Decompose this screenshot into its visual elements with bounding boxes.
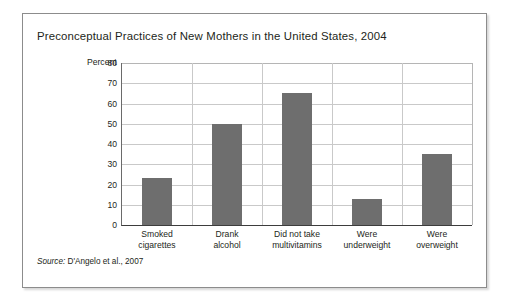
y-axis-tick-label: 80 xyxy=(107,58,117,68)
y-axis-tick-label: 60 xyxy=(107,99,117,109)
y-axis-tick-label: 10 xyxy=(107,200,117,210)
x-axis-category-label: Did not take multivitamins xyxy=(262,229,332,250)
bar xyxy=(212,124,242,225)
gridline-vertical xyxy=(472,63,473,225)
gridline-horizontal xyxy=(122,63,472,64)
bar xyxy=(282,93,312,225)
bar xyxy=(142,178,172,225)
gridline-vertical xyxy=(192,63,193,225)
gridline-vertical xyxy=(262,63,263,225)
source-citation: D'Angelo et al., 2007 xyxy=(68,257,144,266)
figure-frame: Preconceptual Practices of New Mothers i… xyxy=(22,13,487,288)
bar xyxy=(352,199,382,225)
gridline-horizontal xyxy=(122,83,472,84)
y-axis-tick-label: 70 xyxy=(107,78,117,88)
x-axis-category-label: Smoked cigarettes xyxy=(122,229,192,250)
gridline-vertical xyxy=(402,63,403,225)
source-label: Source: xyxy=(37,257,65,266)
x-axis-category-label: Were underweight xyxy=(332,229,402,250)
y-axis-tick-label: 50 xyxy=(107,119,117,129)
source-note: Source: D'Angelo et al., 2007 xyxy=(37,257,143,266)
y-axis-tick-label: 30 xyxy=(107,159,117,169)
bar xyxy=(422,154,452,225)
y-axis-tick-label: 20 xyxy=(107,180,117,190)
x-axis-category-label: Drank alcohol xyxy=(192,229,262,250)
x-axis-category-label: Were overweight xyxy=(402,229,472,250)
y-axis-tick-label: 0 xyxy=(112,220,117,230)
y-axis-tick-label: 40 xyxy=(107,139,117,149)
gridline-vertical xyxy=(332,63,333,225)
chart-title: Preconceptual Practices of New Mothers i… xyxy=(37,30,387,42)
plot-area: 01020304050607080Smoked cigarettesDrank … xyxy=(121,63,472,226)
